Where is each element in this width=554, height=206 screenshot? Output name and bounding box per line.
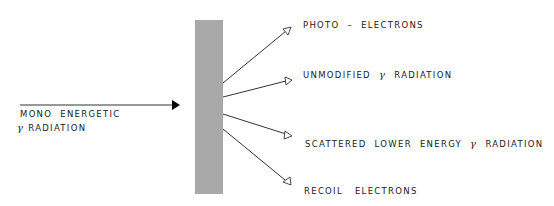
absorber-slab [195,20,223,194]
arrow-photo-electrons [223,27,291,83]
diagram-canvas [0,0,554,206]
output-label-scattered-radiation: SCATTERED LOWER ENERGY γ RADIATION [305,139,543,149]
hollow-arrowhead-icon [283,27,291,35]
arrow-unmodified-radiation [223,77,292,97]
hollow-arrowhead-icon [285,77,292,85]
arrow-scattered-radiation [223,114,292,139]
input-label-radiation: RADIATION [24,123,86,133]
hollow-arrowhead-icon [283,177,291,185]
output-label-photo-electrons: PHOTO – ELECTRONS [303,20,424,30]
hollow-arrowhead-icon [284,131,292,139]
arrow-recoil-electrons [223,129,291,185]
input-label-line2: γ RADIATION [17,123,86,133]
input-label-line1: MONO ENERGETIC [20,109,121,119]
output-label-unmodified-radiation: UNMODIFIED γ RADIATION [303,70,452,80]
output-label-recoil-electrons: RECOIL ELECTRONS [304,186,418,196]
filled-arrowhead-icon [172,100,180,110]
